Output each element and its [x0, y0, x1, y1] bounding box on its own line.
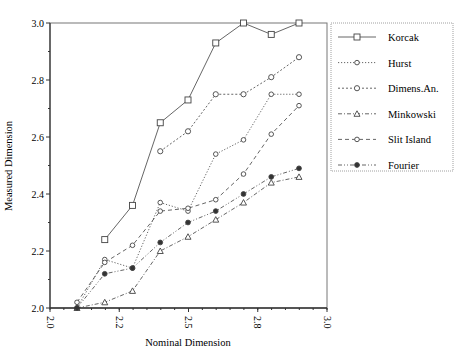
x-tick-label: 2.2 [114, 316, 125, 329]
series-hurst [75, 92, 302, 310]
y-axis: 2.02.22.42.62.83.0 [32, 18, 51, 314]
legend-label: Slit Island [388, 134, 432, 145]
x-tick-label: 2.0 [45, 316, 56, 329]
plot-area [50, 23, 327, 308]
x-axis: 2.02.22.52.83.0 [45, 308, 333, 329]
y-axis-title: Measured Dimension [3, 120, 14, 211]
legend-label: Minkowski [388, 109, 436, 120]
x-axis-title: Nominal Dimension [145, 337, 231, 348]
y-tick-label: 2.4 [32, 189, 45, 200]
x-tick-label: 2.5 [183, 316, 194, 329]
legend-label: Hurst [388, 58, 411, 69]
legend: KorcakHurstDimens.An.MinkowskiSlit Islan… [331, 23, 453, 171]
legend-label: Dimens.An. [388, 83, 439, 94]
x-tick-label: 2.8 [252, 316, 263, 329]
legend-label: Korcak [388, 32, 420, 43]
y-tick-label: 2.2 [32, 246, 45, 257]
series-layer [74, 20, 302, 311]
legend-label: Fourier [388, 160, 419, 171]
y-tick-label: 2.0 [32, 303, 45, 314]
x-tick-label: 3.0 [322, 316, 333, 329]
series-korcak [102, 20, 302, 243]
line-chart: 2.02.22.42.62.83.0 2.02.22.52.83.0 Nomin… [0, 0, 460, 353]
y-tick-label: 2.6 [32, 132, 45, 143]
series-dimens-an- [158, 55, 302, 154]
y-tick-label: 2.8 [32, 75, 45, 86]
y-tick-label: 3.0 [32, 18, 45, 29]
